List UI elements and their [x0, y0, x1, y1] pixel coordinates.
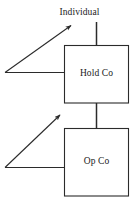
- diagram-graphics-layer: [0, 0, 137, 208]
- holdco-label: Hold Co: [64, 69, 129, 79]
- edge-upper-arrow-to-individual: [5, 26, 71, 73]
- edge-lower-arrow-to-holdco: [5, 115, 60, 168]
- opco-label: Op Co: [64, 157, 129, 167]
- individual-label: Individual: [0, 8, 137, 18]
- ownership-structure-diagram: Individual Hold Co Op Co: [0, 0, 137, 208]
